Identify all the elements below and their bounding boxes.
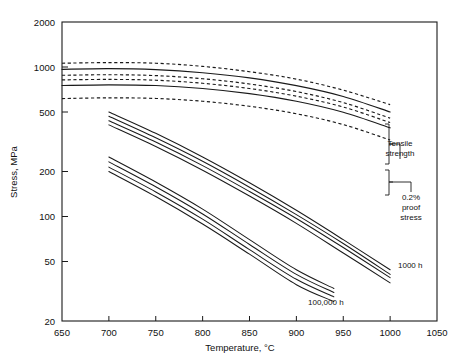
curve-creep-1000h: [109, 125, 390, 283]
figure-container: 65070075080085090095010001050 2000100050…: [0, 0, 472, 363]
tensile-strength-brace: [385, 124, 393, 164]
y-axis-title: Stress, MPa: [8, 145, 19, 197]
x-tick-label: 950: [335, 327, 351, 338]
tensile-strength-annotation: Tensile strength: [385, 124, 414, 164]
y-tick-label: 2000: [34, 17, 55, 28]
curve-proof-stress: [62, 79, 390, 122]
proof-stress-annotation: 0.2% proof stress: [385, 170, 422, 222]
x-tick-label: 800: [195, 327, 211, 338]
stress-vs-temperature-chart: 65070075080085090095010001050 2000100050…: [0, 0, 472, 363]
y-tick-label: 50: [44, 256, 55, 267]
proof-stress-brace: [385, 170, 393, 195]
curve-creep-100000h: [109, 172, 334, 302]
proof-stress-label-line3: stress: [400, 213, 421, 222]
y-tick-label: 100: [39, 211, 55, 222]
curve-creep-100000h: [109, 162, 334, 293]
x-tick-label: 700: [101, 327, 117, 338]
x-tick-label: 1050: [426, 327, 447, 338]
creep-100000h-label: 100,000 h: [308, 298, 344, 307]
y-tick-label: 20: [44, 316, 55, 327]
proof-stress-label-line2: proof: [402, 203, 421, 212]
curve-proof-stress: [62, 98, 390, 140]
x-tick-label: 900: [288, 327, 304, 338]
y-tick-label: 1000: [34, 62, 55, 73]
x-axis-title: Temperature, °C: [205, 342, 274, 353]
x-tick-label: 850: [242, 327, 258, 338]
creep-1000h-label: 1000 h: [398, 261, 422, 270]
y-tick-label: 500: [39, 107, 55, 118]
y-tick-label: 200: [39, 166, 55, 177]
x-tick-label: 650: [54, 327, 70, 338]
x-axis-ticks: 65070075080085090095010001050: [54, 316, 448, 338]
curve-creep-100000h: [109, 167, 334, 297]
x-tick-label: 1000: [380, 327, 401, 338]
x-tick-label: 750: [148, 327, 164, 338]
proof-stress-label-line1: 0.2%: [402, 193, 420, 202]
curve-creep-100000h: [109, 157, 334, 288]
curve-collection: [62, 63, 390, 302]
